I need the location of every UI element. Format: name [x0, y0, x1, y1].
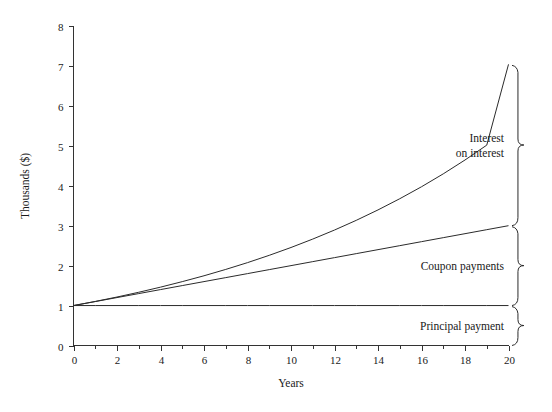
x-tick-label: 14: [373, 354, 385, 366]
x-tick-label: 18: [460, 354, 472, 366]
y-tick-label: 0: [58, 341, 64, 353]
x-tick-label: 8: [246, 354, 252, 366]
y-tick-label: 1: [58, 301, 64, 313]
x-tick-label: 4: [159, 354, 165, 366]
x-tick-label: 16: [417, 354, 429, 366]
x-axis-title: Years: [278, 377, 304, 389]
y-tick-label: 2: [58, 261, 64, 273]
y-tick-label: 6: [58, 101, 64, 113]
y-tick-label: 7: [58, 61, 64, 73]
annotation-label: Principal payment: [420, 320, 505, 333]
x-tick-label: 20: [504, 354, 516, 366]
chart-background: [0, 0, 552, 412]
x-tick-label: 0: [72, 354, 78, 366]
y-axis-title: Thousands ($): [19, 153, 32, 219]
y-tick-label: 5: [58, 141, 64, 153]
x-tick-label: 10: [286, 354, 298, 366]
y-axis-tick-labels: 012345678: [58, 21, 64, 353]
y-tick-label: 3: [58, 221, 64, 233]
x-tick-label: 12: [330, 354, 341, 366]
x-tick-label: 6: [202, 354, 208, 366]
y-tick-label: 8: [58, 21, 64, 33]
y-tick-label: 4: [58, 181, 64, 193]
interest-growth-chart: 012345678 02468101214161820 Thousands ($…: [0, 0, 552, 412]
chart-svg: 012345678 02468101214161820 Thousands ($…: [0, 0, 552, 412]
annotation-label: Coupon payments: [421, 260, 505, 273]
x-tick-label: 2: [115, 354, 121, 366]
